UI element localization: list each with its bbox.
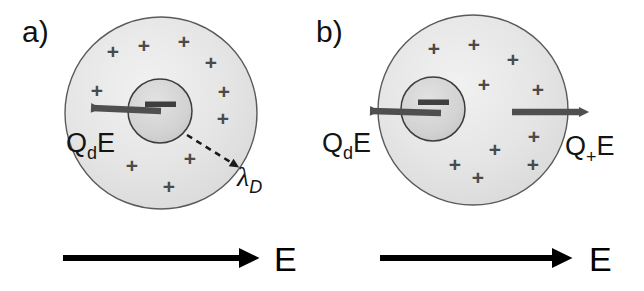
plus-charge: + [178,30,190,53]
plus-charge: + [107,40,119,63]
plus-charge: + [489,138,501,161]
panel-b-label: b) [316,15,343,48]
svg-text:λD: λD [236,161,262,197]
panel-a-debye-length-label: λD [236,161,262,197]
plus-charge: + [528,125,540,148]
force-label-subscript: + [586,147,597,167]
plus-charge: + [91,79,103,102]
force-label-suffix: E [353,128,371,158]
plus-charge: + [138,34,150,57]
plus-charge: + [472,166,484,189]
physics-diagram-figure: a) + + + + + + + + + + QdE [0,0,644,291]
lambda-subscript: D [249,177,262,197]
plus-charge: + [449,153,461,176]
plus-charge: + [532,78,544,101]
force-label-suffix: E [97,128,115,158]
plus-charge: + [205,51,217,74]
panel-a: a) + + + + + + + + + + QdE [22,15,297,278]
plus-charge: + [184,147,196,170]
svg-text:Q+E: Q+E [565,131,615,167]
plus-charge: + [218,80,230,103]
svg-text:QdE: QdE [322,128,371,163]
panel-b-drag-force-label: QdE [322,128,371,163]
panel-a-drag-force-arrow [92,108,161,111]
panel-a-field-label: E [274,240,297,278]
panel-a-label: a) [22,15,49,48]
panel-b-drag-force-arrow [371,111,441,113]
plus-charge: + [163,175,175,198]
minus-charge-icon [418,100,449,106]
plus-charge: + [126,154,138,177]
force-label-base: Q [66,128,87,158]
plus-charge: + [468,33,480,56]
force-label-subscript: d [87,143,97,163]
force-label-suffix: E [597,131,615,161]
lambda-symbol: λ [236,161,249,192]
force-label-subscript: d [343,143,353,163]
plus-charge: + [478,73,490,96]
diagram-canvas: a) + + + + + + + + + + QdE [0,0,644,291]
force-label-base: Q [322,128,343,158]
plus-charge: + [217,107,229,130]
panel-b-ion-force-label: Q+E [565,131,615,167]
minus-charge-icon [145,102,176,108]
panel-b: b) + + + + + + + + + + QdE [316,15,615,278]
plus-charge: + [527,153,539,176]
force-label-base: Q [565,131,586,161]
panel-b-field-label: E [589,240,612,278]
plus-charge: + [507,48,519,71]
plus-charge: + [428,37,440,60]
